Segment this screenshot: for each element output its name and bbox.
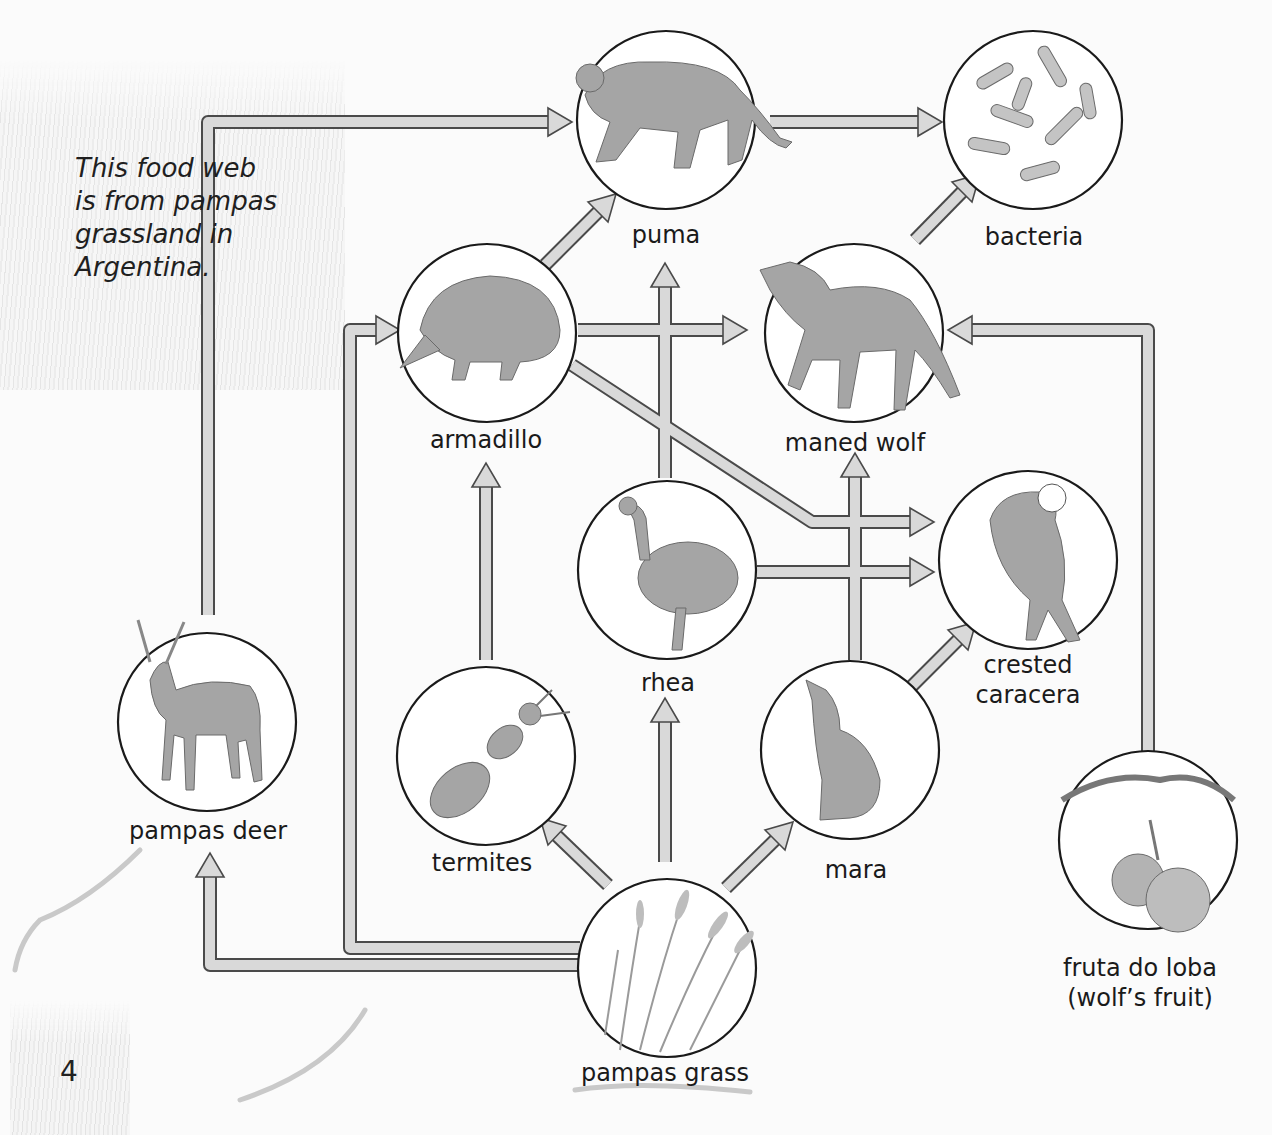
label-pampas-deer: pampas deer [129, 816, 287, 846]
label-termites: termites [432, 848, 532, 878]
label-pampas-grass: pampas grass [581, 1058, 749, 1088]
label-line: caracera [975, 680, 1080, 710]
arrow-grass-to-termites [556, 835, 608, 885]
label-crested-caracara: crested caracera [975, 650, 1080, 710]
caption-line: Argentina. [75, 251, 315, 284]
label-puma: puma [632, 220, 701, 250]
label-armadillo: armadillo [430, 425, 542, 455]
node-pampas-grass [578, 879, 756, 1057]
label-line: (wolf’s fruit) [1063, 983, 1217, 1013]
caption: This food web is from pampas grassland i… [75, 152, 315, 284]
arrow-wolf-to-bacteria [915, 192, 962, 240]
page-number: 4 [60, 1055, 78, 1088]
label-bacteria: bacteria [985, 222, 1084, 252]
caption-line: grassland in [75, 218, 315, 251]
arrow-grass-to-mara [726, 840, 775, 888]
label-line: crested [975, 650, 1080, 680]
label-maned-wolf: maned wolf [785, 428, 925, 458]
arrow-mara-to-caracara [912, 640, 958, 686]
label-rhea: rhea [641, 668, 695, 698]
label-fruta-do-loba: fruta do loba (wolf’s fruit) [1063, 953, 1217, 1013]
label-line: fruta do loba [1063, 953, 1217, 983]
puma-icon [576, 62, 792, 168]
arrow-armadillo-to-puma [545, 212, 598, 265]
caption-line: is from pampas [75, 185, 315, 218]
caption-line: This food web [75, 152, 315, 185]
label-mara: mara [825, 855, 888, 885]
